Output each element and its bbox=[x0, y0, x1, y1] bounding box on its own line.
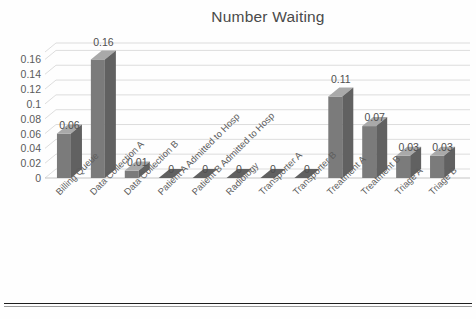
x-axis-label: Radiology bbox=[224, 161, 261, 198]
page-divider-rule bbox=[4, 303, 472, 304]
x-axis-category-labels: Billing QueueData Collection AData Colle… bbox=[0, 0, 476, 319]
x-axis-label: Triage B bbox=[427, 165, 459, 197]
chart-screenshot: Number Waiting 00.020.040.060.080.10.120… bbox=[0, 0, 476, 319]
page-divider-rule-shadow bbox=[4, 306, 472, 307]
x-axis-label: Triage A bbox=[393, 166, 425, 198]
